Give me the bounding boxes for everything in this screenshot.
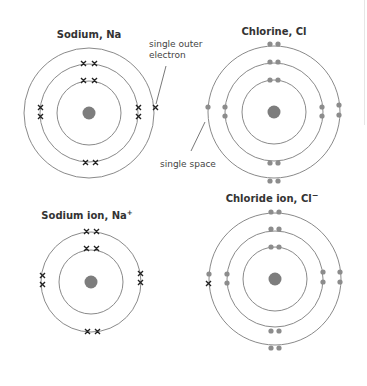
single-space-label: single space (160, 159, 216, 169)
sodium-ion-nucleus (85, 276, 98, 289)
dot-electron-icon (275, 41, 280, 46)
ionic-bonding-diagram: Sodium, Na single outer electron Chlorin… (0, 0, 367, 386)
dot-electron-icon (268, 345, 273, 350)
dot-electron-icon (268, 244, 273, 249)
chloride-ion-title: Chloride ion, Cl− (226, 191, 319, 204)
cross-electron-icon (84, 229, 99, 234)
dot-electron-icon (206, 271, 211, 276)
dot-electron-icon (319, 104, 324, 109)
chlorine-nucleus (268, 106, 281, 119)
chloride-nucleus (269, 273, 282, 286)
sodium-nucleus (83, 107, 96, 120)
dot-electron-icon (275, 160, 280, 165)
single-space-pointer-line (191, 122, 205, 151)
sodium-ion-title-text: Sodium ion, Na (41, 210, 127, 221)
chloride-ion-charge: − (312, 191, 319, 200)
dot-electron-icon (268, 226, 273, 231)
dot-electron-icon (276, 345, 281, 350)
outer-electron-label-line2: electron (149, 50, 186, 60)
dot-electron-icon (276, 328, 281, 333)
dot-electron-icon (267, 77, 272, 82)
dot-electron-icon (267, 41, 272, 46)
cross-electron-icon (83, 160, 98, 165)
chlorine-atom-title: Chlorine, Cl (241, 26, 306, 37)
dot-electron-icon (319, 113, 324, 118)
dot-electron-icon (224, 280, 229, 285)
dot-electron-icon (276, 209, 281, 214)
dot-electron-icon (337, 269, 342, 274)
dot-electron-icon (222, 104, 227, 109)
sodium-ion-diagram: Sodium ion, Na+ (40, 209, 143, 334)
dot-electron-icon (268, 328, 273, 333)
outer-electron-label-line1: single outer (149, 39, 203, 49)
dot-electron-icon (224, 271, 229, 276)
dot-electron-icon (267, 160, 272, 165)
dot-electron-icon (222, 113, 227, 118)
dot-electron-icon (267, 59, 272, 64)
chloride-ion-diagram: Chloride ion, Cl− (206, 191, 343, 351)
dot-electron-icon (320, 269, 325, 274)
dot-electron-icon (275, 178, 280, 183)
dot-electron-icon (205, 104, 210, 109)
dot-electron-icon (276, 226, 281, 231)
dot-electron-icon (268, 209, 273, 214)
dot-electron-icon (275, 59, 280, 64)
dot-electron-icon (337, 279, 342, 284)
sodium-atom-title: Sodium, Na (57, 29, 122, 40)
chloride-ion-title-text: Chloride ion, Cl (226, 193, 312, 204)
sodium-ion-title: Sodium ion, Na+ (41, 209, 133, 221)
dot-electron-icon (336, 112, 341, 117)
dot-electron-icon (276, 244, 281, 249)
outer-electron-pointer-line (156, 66, 166, 104)
chlorine-atom-diagram: Chlorine, Cl single s (160, 26, 342, 184)
dot-electron-icon (336, 102, 341, 107)
gained-electron-cross-icon (206, 281, 211, 286)
sodium-atom-diagram: Sodium, Na single outer electron (24, 29, 203, 178)
cross-electron-icon (136, 105, 141, 119)
sodium-ion-charge: + (127, 209, 133, 217)
dot-electron-icon (275, 77, 280, 82)
dot-electron-icon (267, 178, 272, 183)
dot-electron-icon (320, 279, 325, 284)
